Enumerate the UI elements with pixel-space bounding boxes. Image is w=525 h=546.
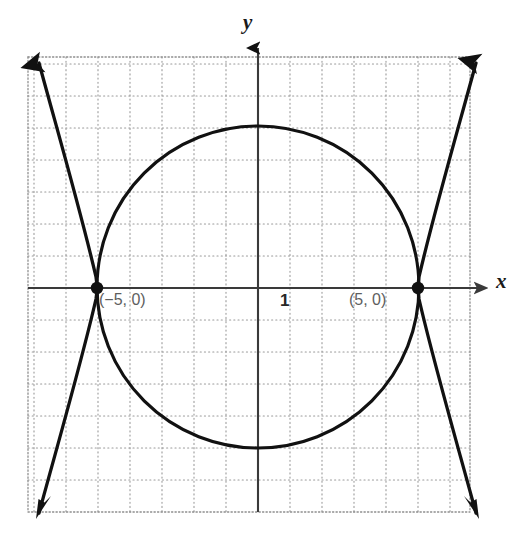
graph-canvas — [0, 0, 525, 546]
intersection-point-right — [412, 282, 424, 294]
conic-graph-figure: y x (−5, 0) (5, 0) 1 — [0, 0, 525, 546]
x-axis-label: x — [496, 271, 507, 292]
unit-scale-label: 1 — [280, 292, 289, 309]
right-intersection-label: (5, 0) — [349, 292, 386, 308]
left-intersection-label: (−5, 0) — [99, 292, 146, 308]
y-axis-label: y — [243, 12, 252, 33]
